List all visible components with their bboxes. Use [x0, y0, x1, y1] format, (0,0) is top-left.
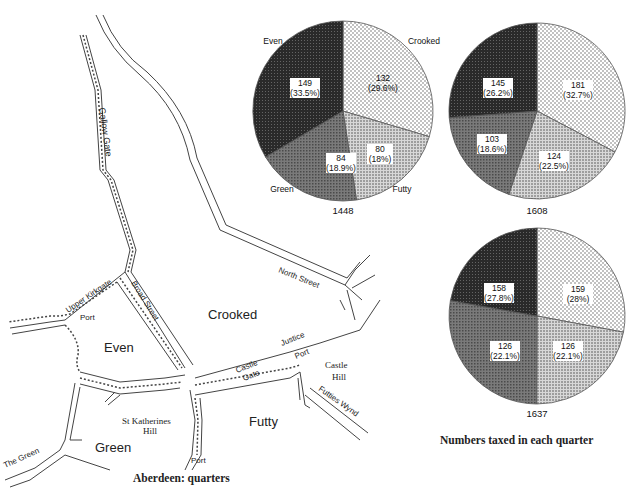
label-the-green: The Green [2, 446, 41, 470]
pie1-legend-futty: Futty [393, 184, 413, 194]
pie1-year: 1448 [332, 205, 353, 216]
pie2-green-value: 103 [485, 134, 499, 144]
pie2-futty-value: 124 [547, 151, 561, 161]
pie3-crooked-pct: (28%) [567, 294, 590, 304]
pie1-green-value: 84 [336, 153, 346, 163]
label-quarter-even: Even [104, 340, 134, 355]
pie2-crooked-value: 181 [571, 80, 585, 90]
label-north-street: North Street [277, 266, 321, 291]
pie-chart-1637 [449, 228, 625, 404]
pie3-even-value: 158 [492, 283, 506, 293]
pie1-even-pct: (33.5%) [290, 88, 320, 98]
label-broad-street: Broad Street [129, 279, 161, 323]
pie3-futty-value: 126 [561, 341, 575, 351]
pie1-green-pct: (18.9%) [326, 163, 356, 173]
charts-caption: Numbers taxed in each quarter [440, 434, 593, 447]
pie2-crooked-pct: (32.7%) [563, 90, 593, 100]
pie1-futty-pct: (18%) [369, 154, 392, 164]
label-st-katherines-hill: Hill [143, 426, 158, 436]
pie1-even-value: 149 [298, 78, 312, 88]
label-port-kirkgate: Port [80, 313, 95, 322]
pie1-crooked-pct: (29.6%) [368, 83, 398, 93]
pie2-futty-pct: (22.5%) [539, 161, 569, 171]
pie3-futty-pct: (22.1%) [553, 351, 583, 361]
label-futties-wynd: Futties Wynd [317, 384, 360, 418]
pie3-even-pct: (27.8%) [484, 293, 514, 303]
pie3-year: 1637 [526, 408, 547, 419]
label-port-castle: Port [293, 347, 311, 361]
even-boundary [65, 325, 80, 372]
pie3-green-value: 126 [498, 341, 512, 351]
label-port-bottom: Port [191, 456, 206, 465]
pie-chart-1608 [449, 23, 625, 199]
pie1-legend-green: Green [270, 184, 294, 194]
map-title: Aberdeen: quarters [133, 472, 230, 485]
label-castle-hill-2: Hill [332, 372, 347, 382]
pie2-year: 1608 [526, 205, 547, 216]
label-quarter-futty: Futty [249, 414, 278, 429]
pie1-crooked-value: 132 [376, 73, 390, 83]
pie2-even-value: 145 [491, 78, 505, 88]
pie1-legend-even: Even [263, 36, 283, 46]
pie1-futty-value: 80 [375, 144, 385, 154]
pie-chart-1448 [253, 21, 433, 201]
label-quarter-crooked: Crooked [208, 307, 257, 322]
pie1-legend-crooked: Crooked [408, 36, 440, 46]
pie2-even-pct: (26.2%) [483, 88, 513, 98]
pie3-green-pct: (22.1%) [490, 351, 520, 361]
label-castle-hill-1: Castle [325, 360, 348, 370]
label-upper-kirkgate: Upper Kirkgate [64, 277, 114, 315]
label-gallow-gate: Gallow Gate [97, 107, 114, 157]
label-quarter-green: Green [95, 440, 131, 455]
pie3-crooked-value: 159 [571, 284, 585, 294]
label-st-katherines: St Katherines [122, 416, 171, 426]
label-justice: Justice [279, 330, 306, 348]
pie2-green-pct: (18.6%) [477, 144, 507, 154]
